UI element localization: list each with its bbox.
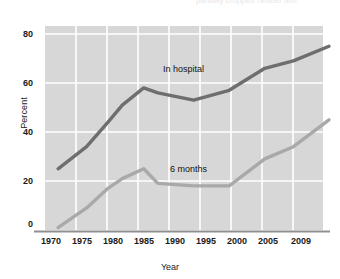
x-axis-label: Year (0, 262, 340, 272)
y-tick-20: 20 (11, 176, 33, 186)
y-tick-0: 0 (11, 219, 33, 229)
y-tick-80: 80 (11, 29, 33, 39)
plot-area-background (45, 26, 323, 230)
series-annotation-6-months: 6 months (170, 164, 207, 174)
x-tick-2009: 2009 (281, 236, 321, 246)
y-tick-40: 40 (11, 127, 33, 137)
line-chart-figure: partially cropped header text Percent Ye… (0, 0, 340, 279)
y-tick-60: 60 (11, 78, 33, 88)
series-annotation-in-hospital: In hospital (163, 64, 204, 74)
